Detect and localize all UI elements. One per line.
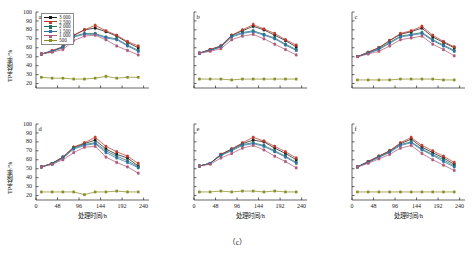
data-point xyxy=(453,191,456,194)
data-point xyxy=(399,147,402,150)
data-point xyxy=(295,157,298,160)
data-point xyxy=(378,158,381,161)
data-point xyxy=(94,24,97,27)
data-point xyxy=(421,25,424,28)
data-point xyxy=(263,38,266,41)
data-point xyxy=(410,29,413,32)
data-point xyxy=(220,157,223,160)
data-point xyxy=(410,136,413,139)
panel-grid: TP去除率/%2030405060708090100a3 0002 5002 0… xyxy=(0,0,475,231)
data-point xyxy=(115,77,118,80)
data-point xyxy=(442,164,445,167)
data-point xyxy=(453,169,456,172)
data-point xyxy=(273,150,276,153)
data-point xyxy=(284,150,287,153)
data-point xyxy=(72,78,75,81)
series-line xyxy=(199,191,296,192)
data-point xyxy=(295,49,298,52)
data-point xyxy=(105,38,108,41)
data-point xyxy=(295,44,298,47)
data-point xyxy=(241,78,244,81)
legend-marker-icon xyxy=(49,39,52,42)
data-point xyxy=(273,190,276,193)
data-point xyxy=(198,78,201,81)
data-point xyxy=(40,76,43,79)
data-point xyxy=(51,51,54,54)
data-point xyxy=(399,38,402,41)
data-point xyxy=(284,38,287,41)
data-point xyxy=(399,78,402,81)
data-point xyxy=(431,78,434,81)
plot-area-e xyxy=(158,110,315,206)
data-point xyxy=(453,50,456,53)
data-point xyxy=(378,50,381,53)
data-point xyxy=(442,79,445,82)
data-point xyxy=(421,144,424,147)
data-point xyxy=(115,157,118,160)
data-point xyxy=(431,191,434,194)
data-point xyxy=(273,155,276,158)
legend-line-swatch xyxy=(44,40,57,41)
data-point xyxy=(62,191,65,194)
data-point xyxy=(105,156,108,159)
legend-line-swatch xyxy=(44,21,57,22)
data-point xyxy=(421,35,424,38)
figure-caption: （c） xyxy=(0,236,475,247)
data-point xyxy=(94,136,97,139)
data-point xyxy=(431,43,434,46)
data-point xyxy=(126,49,129,52)
data-point xyxy=(209,191,212,194)
chart-panel-a: TP去除率/%2030405060708090100a3 0002 5002 0… xyxy=(0,0,158,110)
data-point xyxy=(410,37,413,40)
data-point xyxy=(263,149,266,152)
data-point xyxy=(442,45,445,48)
data-point xyxy=(105,75,108,78)
data-point xyxy=(378,79,381,82)
data-point xyxy=(94,34,97,37)
data-point xyxy=(356,166,359,169)
legend-item-label: 500 xyxy=(59,38,67,43)
data-point xyxy=(126,45,129,48)
data-point xyxy=(126,155,129,158)
series-line xyxy=(199,79,296,80)
data-point xyxy=(40,166,43,169)
chart-panel-b: b xyxy=(158,0,316,110)
data-point xyxy=(431,39,434,42)
data-point xyxy=(220,78,223,81)
data-point xyxy=(453,55,456,58)
data-point xyxy=(442,191,445,194)
data-point xyxy=(295,191,298,194)
data-point xyxy=(252,144,255,147)
data-point xyxy=(115,38,118,41)
data-point xyxy=(126,166,129,169)
plot-area-f xyxy=(316,110,473,206)
data-point xyxy=(295,54,298,57)
data-point xyxy=(263,145,266,148)
legend-item[interactable]: 500 xyxy=(44,38,71,43)
chart-panel-f: 04896144192240处理时间/hf xyxy=(316,110,475,231)
data-point xyxy=(356,191,359,194)
data-point xyxy=(105,191,108,194)
series-line xyxy=(41,144,138,168)
chart-panel-c: c xyxy=(316,0,475,110)
data-point xyxy=(453,166,456,169)
data-point xyxy=(105,29,108,32)
legend-marker-icon xyxy=(49,30,52,33)
data-point xyxy=(94,191,97,194)
data-point xyxy=(367,53,370,56)
data-point xyxy=(137,191,140,194)
data-point xyxy=(126,161,129,164)
data-point xyxy=(126,40,129,43)
data-point xyxy=(263,28,266,31)
data-point xyxy=(295,167,298,170)
data-point xyxy=(230,191,233,194)
data-point xyxy=(51,191,54,194)
data-point xyxy=(51,163,54,166)
data-point xyxy=(263,78,266,81)
chart-panel-e: 04896144192240处理时间/he xyxy=(158,110,316,231)
data-point xyxy=(94,145,97,148)
data-point xyxy=(230,152,233,155)
plot-area-c xyxy=(316,0,473,94)
data-point xyxy=(263,140,266,143)
data-point xyxy=(356,55,359,58)
